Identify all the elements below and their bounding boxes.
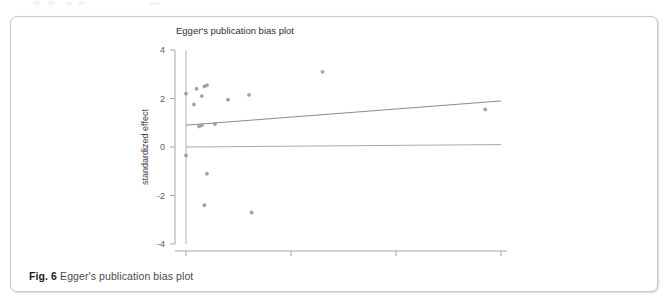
data-point bbox=[184, 92, 187, 95]
top-edge-artifact bbox=[0, 0, 668, 12]
data-point bbox=[200, 123, 203, 126]
data-point bbox=[226, 98, 229, 101]
data-point bbox=[200, 94, 203, 97]
data-series-layer bbox=[184, 70, 501, 214]
y-tick-label-neg2: -2 bbox=[157, 191, 165, 201]
regression-line bbox=[186, 101, 501, 125]
data-point bbox=[203, 204, 206, 207]
data-point bbox=[205, 172, 208, 175]
y-tick-label-0: 0 bbox=[160, 142, 165, 152]
plot-title: Egger's publication bias plot bbox=[176, 25, 294, 36]
reference-line bbox=[186, 145, 501, 147]
x-tick-label-20: 20 bbox=[286, 258, 296, 260]
data-point bbox=[250, 211, 253, 214]
y-tick-label-neg4: -4 bbox=[157, 239, 165, 249]
data-point bbox=[213, 122, 216, 125]
x-tick-label-60: 60 bbox=[496, 258, 506, 260]
y-tick-label-4: 4 bbox=[160, 45, 165, 55]
data-point bbox=[192, 103, 195, 106]
egger-publication-bias-plot: Egger's publication bias plot 4 2 0 -2 -… bbox=[11, 17, 659, 260]
data-point bbox=[247, 93, 250, 96]
data-point bbox=[321, 70, 324, 73]
figure-caption: Fig. 6 Egger's publication bias plot bbox=[29, 270, 193, 282]
data-point bbox=[195, 87, 198, 90]
x-tick-label-40: 40 bbox=[391, 258, 401, 260]
y-tick-label-2: 2 bbox=[160, 94, 165, 104]
y-axis-title: standardized effect bbox=[140, 109, 150, 185]
data-point bbox=[484, 108, 487, 111]
data-point bbox=[205, 83, 208, 86]
figure-caption-text: Egger's publication bias plot bbox=[60, 270, 193, 282]
figure-number: Fig. 6 bbox=[29, 270, 57, 282]
x-tick-label-0: 0 bbox=[183, 258, 188, 260]
data-point bbox=[184, 154, 187, 157]
figure-card: Egger's publication bias plot 4 2 0 -2 -… bbox=[10, 16, 658, 292]
plot-svg: Egger's publication bias plot 4 2 0 -2 -… bbox=[11, 17, 659, 260]
